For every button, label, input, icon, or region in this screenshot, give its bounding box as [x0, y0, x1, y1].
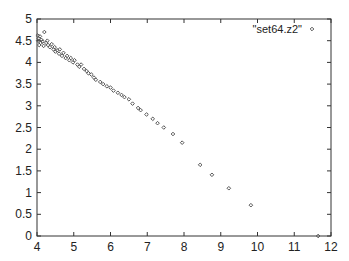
data-point	[171, 132, 175, 136]
data-point	[127, 97, 131, 101]
data-point	[198, 163, 202, 167]
legend: "set64.z2"	[253, 23, 314, 35]
data-point	[43, 30, 47, 34]
x-tick-label: 11	[288, 240, 301, 254]
data-point	[180, 141, 184, 145]
legend-marker	[310, 27, 314, 31]
y-tick-label: 1	[25, 186, 32, 200]
legend-label: "set64.z2"	[253, 23, 302, 35]
x-tick-label: 10	[251, 240, 265, 254]
data-point	[131, 102, 135, 106]
data-point	[249, 203, 253, 207]
data-point	[45, 39, 49, 43]
data-point	[57, 52, 61, 56]
plot-frame	[37, 19, 331, 236]
data-point	[162, 126, 166, 130]
data-point	[210, 173, 214, 177]
x-tick-label: 8	[181, 240, 188, 254]
data-point	[101, 82, 105, 86]
data-point	[42, 44, 46, 48]
data-point	[151, 117, 155, 121]
y-tick-label: 2	[25, 142, 32, 156]
x-tick-label: 5	[70, 240, 77, 254]
x-tick-label: 7	[144, 240, 151, 254]
x-tick-label: 12	[324, 240, 338, 254]
y-tick-label: 3.5	[15, 77, 32, 91]
y-tick-label: 4.5	[15, 34, 32, 48]
data-point	[123, 95, 127, 99]
y-tick-label: 0.5	[15, 207, 32, 221]
data-point	[145, 113, 149, 117]
data-point	[227, 186, 231, 190]
data-point	[156, 121, 160, 125]
data-point	[116, 91, 120, 95]
plot-axes: 45678910111200.511.522.533.544.55	[15, 12, 338, 254]
data-point	[120, 93, 124, 97]
x-tick-label: 9	[217, 240, 224, 254]
x-tick-label: 6	[107, 240, 114, 254]
data-point	[112, 89, 116, 93]
data-point	[98, 80, 102, 84]
x-tick-label: 4	[34, 240, 41, 254]
y-tick-label: 1.5	[15, 164, 32, 178]
scatter-chart: 45678910111200.511.522.533.544.55 "set64…	[0, 0, 349, 261]
data-point	[53, 45, 57, 49]
data-points	[36, 30, 320, 238]
y-tick-label: 2.5	[15, 121, 32, 135]
y-tick-label: 0	[25, 229, 32, 243]
y-tick-label: 5	[25, 12, 32, 26]
y-tick-label: 4	[25, 55, 32, 69]
y-tick-label: 3	[25, 99, 32, 113]
